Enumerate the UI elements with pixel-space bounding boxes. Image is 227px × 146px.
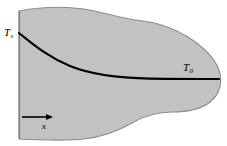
- label-surface-temperature-subscript: s: [10, 32, 13, 39]
- label-surface-temperature: Ts: [4, 27, 13, 38]
- label-ambient-temperature-subscript: 0: [189, 67, 192, 74]
- semi-infinite-solid-figure: Ts T0 x: [0, 0, 227, 146]
- label-x-axis: x: [42, 122, 46, 131]
- label-ambient-temperature: T0: [183, 62, 193, 73]
